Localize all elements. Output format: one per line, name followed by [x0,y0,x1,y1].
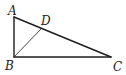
label-c: C [113,60,122,74]
segment-ac [14,17,111,57]
label-d: D [40,14,51,28]
label-b: B [4,59,14,73]
label-a: A [7,4,17,18]
triangle-diagram: A D B C [0,0,126,75]
segment-bd [14,29,41,57]
